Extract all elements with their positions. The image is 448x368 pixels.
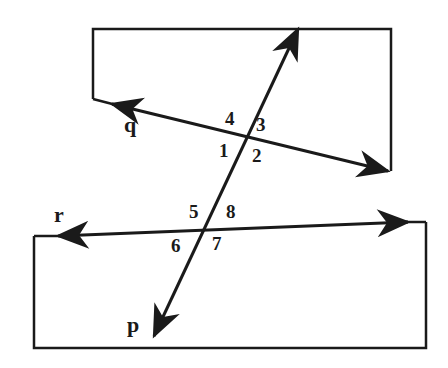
angle-label-7: 7 bbox=[212, 233, 222, 254]
angle-label-6: 6 bbox=[171, 235, 181, 256]
line-r bbox=[58, 222, 408, 236]
angle-label-4: 4 bbox=[225, 108, 235, 129]
angle-label-5: 5 bbox=[189, 201, 199, 222]
angle-label-3: 3 bbox=[256, 114, 266, 135]
label-q: q bbox=[124, 112, 137, 137]
diagram-canvas: q r p 4 3 1 2 5 8 6 7 bbox=[0, 0, 448, 368]
lower-box-outline bbox=[34, 222, 426, 348]
angle-label-2: 2 bbox=[252, 145, 262, 166]
label-r: r bbox=[54, 202, 64, 227]
line-q bbox=[112, 104, 388, 171]
geometry-diagram: q r p 4 3 1 2 5 8 6 7 bbox=[0, 0, 448, 368]
label-p: p bbox=[127, 312, 139, 337]
angle-label-1: 1 bbox=[219, 140, 229, 161]
angle-label-8: 8 bbox=[226, 201, 236, 222]
line-p-transversal bbox=[154, 29, 298, 336]
